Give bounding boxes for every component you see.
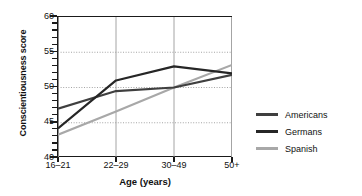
y-tick-mark-major [50, 51, 57, 53]
y-tick-mark-minor [52, 114, 57, 115]
y-tick-mark-minor [52, 135, 57, 136]
x-axis-title: Age (years) [58, 176, 232, 187]
legend-label: Americans [285, 110, 328, 120]
y-tick-mark-minor [52, 79, 57, 80]
x-tick-mark [231, 157, 232, 162]
y-tick-mark-minor [52, 149, 57, 150]
plot-area [58, 16, 232, 157]
y-tick-mark-minor [52, 44, 57, 45]
y-tick-mark-major [50, 121, 57, 123]
y-tick-mark-minor [52, 128, 57, 129]
y-tick-mark-minor [52, 37, 57, 38]
legend-label: Spanish [285, 144, 318, 154]
y-tick-mark-minor [52, 72, 57, 73]
chart-legend: AmericansGermansSpanish [256, 106, 360, 157]
y-tick-mark-major [50, 156, 57, 158]
legend-item-spanish[interactable]: Spanish [256, 140, 360, 157]
x-axis-tick-labels: 16–2122–2930–4950+ [58, 160, 232, 174]
y-tick-mark-minor [52, 107, 57, 108]
y-tick-mark-minor [52, 58, 57, 59]
legend-swatch-icon [256, 113, 278, 116]
y-tick-mark-minor [52, 65, 57, 66]
y-tick-mark-major [50, 86, 57, 88]
y-axis-title: Conscientiousness score [18, 8, 28, 158]
chart-figure: Conscientiousness score 4045505560 16–21… [0, 0, 362, 196]
y-tick-mark-minor [52, 142, 57, 143]
y-tick-mark-minor [52, 29, 57, 30]
y-tick-mark-major [50, 15, 57, 17]
chart-lines [58, 17, 232, 158]
legend-item-americans[interactable]: Americans [256, 106, 360, 123]
y-tick-mark-minor [52, 22, 57, 23]
x-tick-mark [57, 157, 58, 162]
y-tick-mark-minor [52, 93, 57, 94]
y-tick-mark-minor [52, 100, 57, 101]
legend-swatch-icon [256, 130, 278, 133]
x-tick-mark [115, 157, 116, 162]
legend-label: Germans [285, 127, 322, 137]
legend-swatch-icon [256, 147, 278, 150]
series-line-americans [58, 75, 232, 109]
legend-item-germans[interactable]: Germans [256, 123, 360, 140]
x-tick-mark [173, 157, 174, 162]
